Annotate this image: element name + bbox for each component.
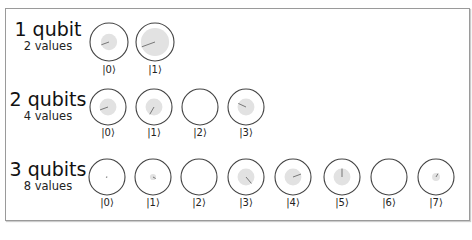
ket-label: |1⟩ [147,127,161,138]
state-circle [324,159,360,195]
state-circle [90,23,128,61]
state-circle [275,159,311,195]
ket-label: |5⟩ [335,197,349,208]
state-circle [418,159,454,195]
ket-label: |6⟩ [382,197,396,208]
ket-label: |4⟩ [286,197,300,208]
row-title-1: 1 qubit2 values [3,20,93,53]
ket-label: |0⟩ [100,197,114,208]
ket-label: |3⟩ [239,127,253,138]
ket-label: |7⟩ [429,197,443,208]
state-circle [371,159,407,195]
state-circle [89,159,125,195]
state-circle [136,23,174,61]
ket-label: |1⟩ [146,197,160,208]
value-count-label: 4 values [3,111,93,123]
state-circle [90,89,126,125]
ket-label: |1⟩ [148,64,162,75]
state-circle [228,89,264,125]
ket-label: |0⟩ [102,64,116,75]
state-circle [136,89,172,125]
ket-label: |2⟩ [192,197,206,208]
value-count-label: 2 values [3,41,93,53]
state-circle [135,159,171,195]
ket-label: |3⟩ [239,197,253,208]
state-circle [182,89,218,125]
row-title-2: 2 qubits4 values [3,90,93,123]
qubit-count-label: 2 qubits [3,90,93,109]
qubit-count-label: 1 qubit [3,20,93,39]
ket-label: |0⟩ [101,127,115,138]
state-circle [228,159,264,195]
state-circle [181,159,217,195]
ket-label: |2⟩ [193,127,207,138]
row-title-3: 3 qubits8 values [3,160,93,193]
value-count-label: 8 values [3,181,93,193]
qubit-count-label: 3 qubits [3,160,93,179]
